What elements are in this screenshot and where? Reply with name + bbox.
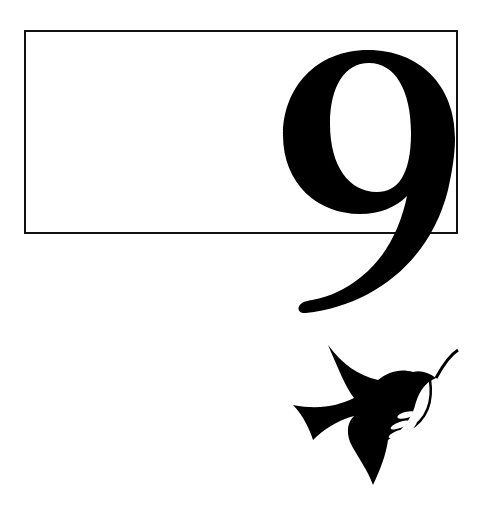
dove-with-olive-branch-icon	[288, 330, 463, 490]
